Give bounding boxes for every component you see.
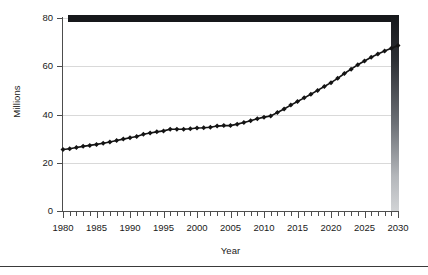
x-tick-1986 bbox=[103, 212, 104, 216]
x-tick-1987 bbox=[110, 212, 111, 216]
data-point-2001 bbox=[201, 125, 206, 130]
x-tick-1983 bbox=[83, 212, 84, 216]
x-tick-2011 bbox=[271, 212, 272, 216]
data-point-1983 bbox=[81, 144, 86, 149]
data-point-2002 bbox=[208, 125, 213, 130]
data-point-2029 bbox=[389, 46, 394, 51]
x-tick-2000 bbox=[197, 212, 198, 218]
data-point-1993 bbox=[148, 131, 153, 136]
data-point-1988 bbox=[114, 138, 119, 143]
x-tick-2007 bbox=[244, 212, 245, 216]
series-line-0 bbox=[63, 46, 398, 150]
y-tick-label-20: 20 bbox=[14, 157, 53, 168]
x-tick-2002 bbox=[210, 212, 211, 216]
x-tick-2024 bbox=[358, 212, 359, 216]
y-tick-80 bbox=[57, 18, 63, 19]
data-point-2028 bbox=[382, 49, 387, 54]
data-point-1980 bbox=[61, 147, 66, 152]
data-point-2007 bbox=[241, 120, 246, 125]
x-tick-2023 bbox=[351, 212, 352, 216]
x-tick-2021 bbox=[338, 212, 339, 216]
x-tick-2006 bbox=[237, 212, 238, 216]
series-layer bbox=[0, 0, 428, 275]
x-tick-2016 bbox=[304, 212, 305, 216]
y-tick-20 bbox=[57, 163, 63, 164]
data-point-1986 bbox=[101, 141, 106, 146]
x-tick-2010 bbox=[264, 212, 265, 218]
x-tick-1994 bbox=[157, 212, 158, 216]
data-point-2000 bbox=[195, 126, 200, 131]
x-tick-1990 bbox=[130, 212, 131, 218]
x-tick-2030 bbox=[398, 212, 399, 218]
data-point-1985 bbox=[94, 142, 99, 147]
x-tick-2009 bbox=[257, 212, 258, 216]
y-tick-label-60: 60 bbox=[14, 60, 53, 71]
x-tick-2005 bbox=[231, 212, 232, 218]
y-tick-label-40: 40 bbox=[14, 109, 53, 120]
data-point-1997 bbox=[174, 127, 179, 132]
x-tick-2008 bbox=[251, 212, 252, 216]
data-point-1998 bbox=[181, 127, 186, 132]
x-tick-2012 bbox=[277, 212, 278, 216]
data-point-1999 bbox=[188, 126, 193, 131]
x-tick-2022 bbox=[344, 212, 345, 216]
data-point-1994 bbox=[154, 129, 159, 134]
x-tick-2003 bbox=[217, 212, 218, 216]
x-tick-2001 bbox=[204, 212, 205, 216]
x-tick-2013 bbox=[284, 212, 285, 216]
data-point-2030 bbox=[396, 43, 401, 48]
data-point-2010 bbox=[262, 115, 267, 120]
data-point-2008 bbox=[248, 118, 253, 123]
data-point-2004 bbox=[221, 123, 226, 128]
y-tick-label-80: 80 bbox=[14, 12, 53, 23]
x-tick-1985 bbox=[97, 212, 98, 218]
chart-figure: Millions Year 02040608019801985199019952… bbox=[0, 0, 428, 275]
x-tick-1998 bbox=[184, 212, 185, 216]
data-point-2003 bbox=[215, 124, 220, 129]
x-tick-1984 bbox=[90, 212, 91, 216]
x-tick-1992 bbox=[143, 212, 144, 216]
x-tick-1997 bbox=[177, 212, 178, 216]
x-tick-2020 bbox=[331, 212, 332, 218]
data-point-1995 bbox=[161, 128, 166, 133]
data-point-1989 bbox=[121, 137, 126, 142]
data-point-1987 bbox=[107, 140, 112, 145]
x-tick-1996 bbox=[170, 212, 171, 216]
x-tick-1981 bbox=[70, 212, 71, 216]
data-point-1984 bbox=[87, 143, 92, 148]
data-point-1982 bbox=[74, 145, 79, 150]
x-tick-2025 bbox=[365, 212, 366, 218]
x-tick-label-2030: 2030 bbox=[378, 222, 418, 233]
x-tick-1991 bbox=[137, 212, 138, 216]
x-tick-2027 bbox=[378, 212, 379, 216]
data-point-1981 bbox=[67, 146, 72, 151]
x-tick-2026 bbox=[371, 212, 372, 216]
x-tick-1993 bbox=[150, 212, 151, 216]
x-tick-1982 bbox=[76, 212, 77, 216]
x-axis-title: Year bbox=[63, 245, 398, 256]
y-tick-40 bbox=[57, 115, 63, 116]
data-point-1990 bbox=[128, 135, 133, 140]
data-point-2005 bbox=[228, 123, 233, 128]
x-tick-2029 bbox=[391, 212, 392, 216]
x-tick-2014 bbox=[291, 212, 292, 216]
bottom-rule bbox=[0, 266, 428, 267]
x-tick-1988 bbox=[117, 212, 118, 216]
data-point-1996 bbox=[168, 127, 173, 132]
data-point-1992 bbox=[141, 132, 146, 137]
x-tick-2015 bbox=[298, 212, 299, 218]
x-tick-2028 bbox=[385, 212, 386, 216]
x-tick-1999 bbox=[190, 212, 191, 216]
x-tick-1980 bbox=[63, 212, 64, 218]
data-point-2006 bbox=[235, 122, 240, 127]
x-tick-2018 bbox=[318, 212, 319, 216]
x-tick-2004 bbox=[224, 212, 225, 216]
x-tick-1989 bbox=[123, 212, 124, 216]
data-point-1991 bbox=[134, 134, 139, 139]
data-point-2009 bbox=[255, 116, 260, 121]
y-tick-60 bbox=[57, 66, 63, 67]
x-tick-1995 bbox=[164, 212, 165, 218]
x-tick-2019 bbox=[324, 212, 325, 216]
x-tick-2017 bbox=[311, 212, 312, 216]
y-tick-label-0: 0 bbox=[14, 205, 53, 216]
